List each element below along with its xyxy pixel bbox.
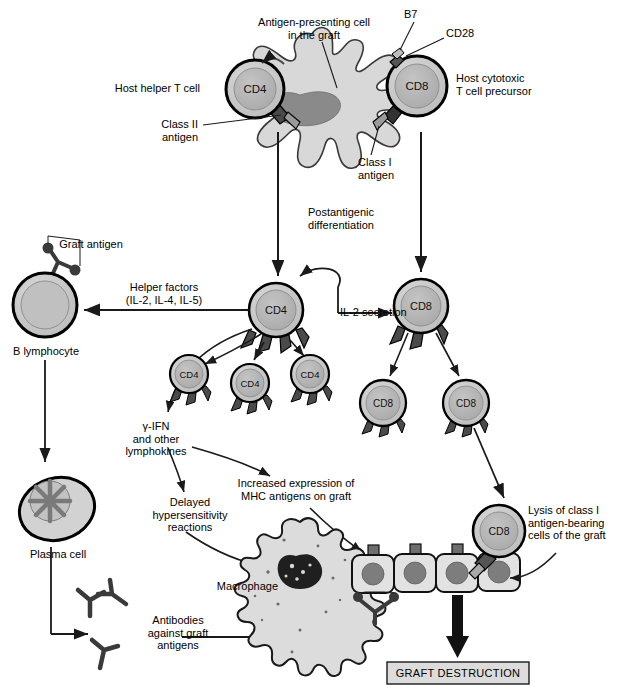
graft-destruction-label: GRAFT DESTRUCTION [387,667,529,680]
b-lymphocyte [13,243,81,338]
b7-label: B7 [404,8,434,21]
lysis-label: Lysis of class I antigen-bearing cells o… [528,504,620,542]
cd8-marker-clone-1: CD8 [373,398,393,409]
b-lymphocyte-label: B lymphocyte [2,345,90,358]
host-helper-t-cell-label: Host helper T cell [104,82,200,95]
il2-secretion-label: IL-2 secretion [340,306,426,319]
cd4-clone-arrow-1 [205,334,261,364]
class-ii-antigen-label: Class II antigen [132,118,198,143]
cd8-clone-1: CD8 [360,380,406,437]
gamma-ifn-label: γ-IFN and other lymphokines [110,420,202,458]
diagram-canvas: CD4 CD8 CD4 CD8 [0,0,621,691]
activated-cd4-cell: CD4 [241,283,309,353]
pathway-svg: CD4 CD8 CD4 CD8 [0,0,621,691]
ifn-to-mhc-arrow [192,447,270,476]
host-cytotoxic-t-cell-label: Host cytotoxic T cell precursor [456,72,556,97]
cd4-clone-3: CD4 [291,355,332,405]
il2-autocrine-arrow [300,268,340,287]
cd4-marker-clone-3: CD4 [300,369,319,380]
plasma-cell-label: Plasma cell [16,548,100,561]
graft-destruction-arrow [446,595,469,658]
cd4-marker-clone-1: CD4 [179,369,198,380]
cd8-marker-top: CD8 [405,80,428,92]
cd4-marker-activated: CD4 [265,304,287,316]
postantigenic-differentiation-label: Postantigenic differentiation [290,206,392,231]
cd8-clone-arrow-2 [436,333,459,376]
cd8-to-effector-arrow [474,428,504,498]
increased-mhc-label: Increased expression of MHC antigens on … [222,477,370,502]
cd4-marker-clone-2: CD4 [240,378,259,389]
macrophage-label: Macrophage [208,580,278,593]
cd8-marker-effector: CD8 [488,525,509,537]
helper-factors-label: Helper factors (IL-2, IL-4, IL-5) [106,281,222,306]
graft-antigen-label: Graft antigen [45,238,137,251]
cd4-clone-2: CD4 [231,364,272,414]
apc-label: Antigen-presenting cell in the graft [248,16,380,41]
cd28-leader-line [406,38,444,56]
cd8-marker-clone-2: CD8 [456,398,476,409]
antibody-cluster [78,580,126,668]
antibodies-label: Antibodies against graft antigens [130,614,226,652]
b7-leader-line [400,22,414,50]
cd28-label: CD28 [446,27,490,40]
class-i-antigen-label: Class I antigen [358,156,418,181]
cd4-marker-top: CD4 [243,83,267,95]
cd8-clone-2: CD8 [443,380,489,437]
plasma-cell [12,469,102,550]
cd4-clone-1: CD4 [170,355,211,405]
